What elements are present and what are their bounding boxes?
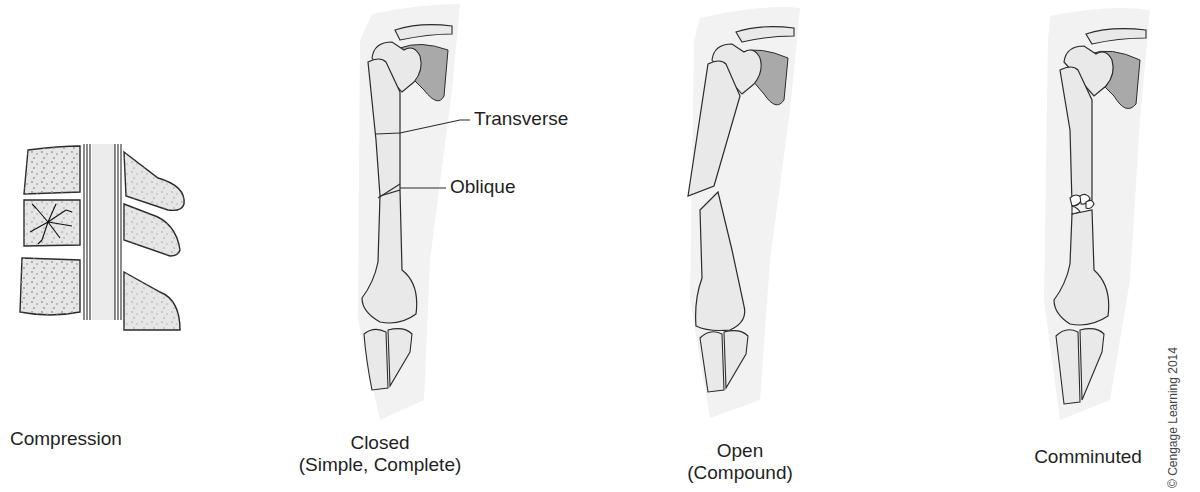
arm-closed-illustration — [358, 4, 470, 420]
label-closed-line-1: Closed — [280, 432, 480, 454]
label-comminuted: Comminuted — [1018, 446, 1158, 468]
label-comminuted-line-1: Comminuted — [1018, 446, 1158, 468]
arm-comminuted-illustration — [1044, 8, 1150, 420]
label-open: Open (Compound) — [660, 440, 820, 484]
spine-compression-illustration — [20, 144, 184, 330]
arm-open-illustration — [688, 7, 800, 418]
label-open-line-1: Open — [660, 440, 820, 462]
copyright-credit: © Cengage Learning 2014 — [1166, 347, 1180, 488]
label-compression: Compression — [10, 428, 122, 450]
label-closed: Closed (Simple, Complete) — [280, 432, 480, 476]
label-open-line-2: (Compound) — [660, 462, 820, 484]
callout-transverse: Transverse — [474, 108, 568, 130]
callout-oblique: Oblique — [450, 176, 516, 198]
label-compression-line-1: Compression — [10, 428, 122, 450]
diagram-canvas — [0, 0, 1200, 492]
label-closed-line-2: (Simple, Complete) — [280, 454, 480, 476]
